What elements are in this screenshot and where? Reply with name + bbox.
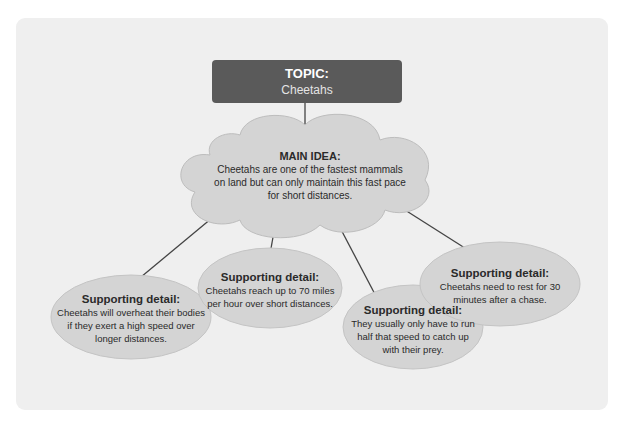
detail-line: with their prey.: [343, 343, 483, 356]
topic-box: TOPIC: Cheetahs: [212, 60, 402, 103]
detail-line: Cheetahs will overheat their bodies: [51, 306, 211, 319]
supporting-detail-3: Supporting detail: They usually only hav…: [343, 303, 483, 356]
supporting-detail-4: Supporting detail: Cheetahs need to rest…: [420, 266, 580, 306]
detail-label: Supporting detail:: [51, 292, 211, 306]
main-idea-label: MAIN IDEA:: [185, 150, 435, 163]
detail-line: They usually only have to run: [343, 317, 483, 330]
main-idea-line: on land but can only maintain this fast …: [185, 176, 435, 189]
detail-line: half that speed to catch up: [343, 330, 483, 343]
topic-label: TOPIC:: [212, 66, 402, 82]
detail-line: Cheetahs need to rest for 30: [420, 280, 580, 293]
main-idea-line: Cheetahs are one of the fastest mammals: [185, 163, 435, 176]
detail-label: Supporting detail:: [198, 270, 342, 284]
detail-line: per hour over short distances.: [198, 297, 342, 310]
supporting-detail-2: Supporting detail: Cheetahs reach up to …: [198, 270, 342, 310]
supporting-detail-1: Supporting detail: Cheetahs will overhea…: [51, 292, 211, 345]
detail-line: longer distances.: [51, 332, 211, 345]
detail-label: Supporting detail:: [420, 266, 580, 280]
main-idea: MAIN IDEA: Cheetahs are one of the faste…: [185, 150, 435, 202]
detail-line: minutes after a chase.: [420, 293, 580, 306]
detail-line: Cheetahs reach up to 70 miles: [198, 284, 342, 297]
topic-value: Cheetahs: [212, 82, 402, 98]
detail-line: if they exert a high speed over: [51, 319, 211, 332]
main-idea-line: for short distances.: [185, 189, 435, 202]
